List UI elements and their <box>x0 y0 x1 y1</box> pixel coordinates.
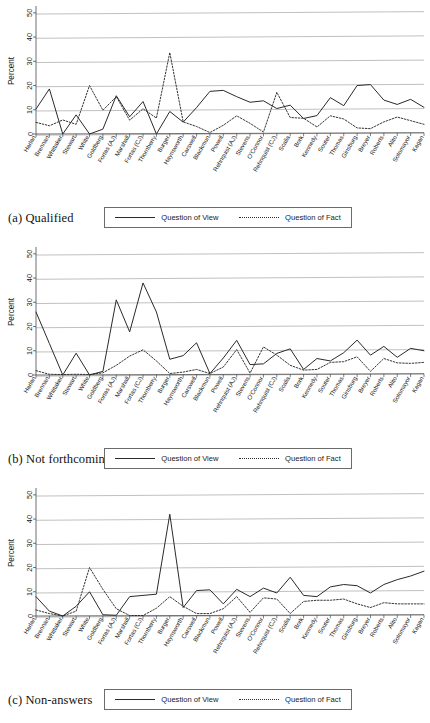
y-axis-tick-label: 30 <box>26 57 35 65</box>
figure-container: 01020304050PercentHarlanBrennanWhittaker… <box>0 0 430 723</box>
y-axis-tick-label: 30 <box>26 539 35 547</box>
y-axis-tick-label: 10 <box>26 347 35 355</box>
legend-label-fact: Question of Fact <box>285 213 341 222</box>
y-axis-tick-label: 40 <box>26 274 35 282</box>
y-axis-title: Percent <box>7 538 16 567</box>
y-axis-tick-label: 50 <box>26 491 35 499</box>
x-axis-tick-label: Alito <box>386 133 398 147</box>
legend-not-forthcoming: Question of View Question of Fact <box>104 448 352 469</box>
dotted-line-icon <box>239 458 279 459</box>
y-axis-tick-label: 10 <box>26 588 35 596</box>
y-axis-tick-label: 50 <box>26 9 35 17</box>
legend-item-view: Question of View <box>105 695 229 704</box>
x-axis-tick-label: Scalia <box>277 615 292 633</box>
y-axis-tick-label: 10 <box>26 106 35 114</box>
y-axis-tick-label: 20 <box>26 81 35 89</box>
legend-label-view: Question of View <box>161 695 218 704</box>
legend-item-fact: Question of Fact <box>229 213 351 222</box>
y-axis-tick-label: 30 <box>26 298 35 306</box>
x-axis-tick-label: Bork <box>292 374 305 389</box>
x-axis-tick-label: Scalia <box>277 374 292 392</box>
panel-non-answers: 01020304050PercentHarlanBrennanWhittaker… <box>0 482 430 723</box>
plot-area-qualified: 01020304050PercentHarlanBrennanWhittaker… <box>0 0 430 205</box>
y-axis-tick-label: 40 <box>26 33 35 41</box>
panel-not-forthcoming: 01020304050PercentHarlanBrennanWhittaker… <box>0 241 430 482</box>
x-axis-tick-label: Kagan <box>410 375 425 394</box>
chart-svg-qualified: 01020304050PercentHarlanBrennanWhittaker… <box>0 0 430 205</box>
legend-item-view: Question of View <box>105 454 229 463</box>
x-axis-tick-label: Scalia <box>277 133 292 151</box>
x-axis-tick-label: Alito <box>386 374 398 388</box>
caption-row-non-answers: (c) Non-answers Question of View Questio… <box>0 687 430 721</box>
legend-label-view: Question of View <box>161 213 218 222</box>
panel-qualified: 01020304050PercentHarlanBrennanWhittaker… <box>0 0 430 241</box>
caption-row-qualified: (a) Qualified Question of View Question … <box>0 205 430 239</box>
x-axis-tick-label: Kagan <box>410 134 425 153</box>
y-axis-tick-label: 50 <box>26 250 35 258</box>
y-axis-tick-label: 20 <box>26 322 35 330</box>
legend-label-fact: Question of Fact <box>285 695 341 704</box>
y-axis-title: Percent <box>7 297 16 326</box>
panel-caption: (c) Non-answers <box>8 693 92 708</box>
chart-svg-non-answers: 01020304050PercentHarlanBrennanWhittaker… <box>0 482 430 687</box>
x-axis-tick-label: Alito <box>386 615 398 629</box>
y-axis-tick-label: 20 <box>26 563 35 571</box>
series-line-question-of-view <box>36 283 424 375</box>
y-axis-title: Percent <box>7 56 16 85</box>
series-line-question-of-fact <box>36 53 424 133</box>
solid-line-icon <box>115 458 155 459</box>
solid-line-icon <box>115 217 155 218</box>
x-axis-tick-label: Kagan <box>410 616 425 635</box>
y-axis-tick-label: 40 <box>26 515 35 523</box>
legend-item-fact: Question of Fact <box>229 695 351 704</box>
panel-caption: (b) Not forthcoming <box>8 452 111 467</box>
caption-row-not-forthcoming: (b) Not forthcoming Question of View Que… <box>0 446 430 480</box>
solid-line-icon <box>115 699 155 700</box>
plot-area-non-answers: 01020304050PercentHarlanBrennanWhittaker… <box>0 482 430 687</box>
dotted-line-icon <box>239 217 279 218</box>
plot-area-not-forthcoming: 01020304050PercentHarlanBrennanWhittaker… <box>0 241 430 446</box>
dotted-line-icon <box>239 699 279 700</box>
legend-item-fact: Question of Fact <box>229 454 351 463</box>
legend-non-answers: Question of View Question of Fact <box>104 689 352 710</box>
legend-item-view: Question of View <box>105 213 229 222</box>
legend-label-fact: Question of Fact <box>285 454 341 463</box>
chart-svg-not-forthcoming: 01020304050PercentHarlanBrennanWhittaker… <box>0 241 430 446</box>
series-line-question-of-view <box>36 514 424 616</box>
legend-label-view: Question of View <box>161 454 218 463</box>
legend-qualified: Question of View Question of Fact <box>104 207 352 228</box>
x-axis-tick-label: Bork <box>292 133 305 148</box>
x-axis-tick-label: Bork <box>292 615 305 630</box>
panel-caption: (a) Qualified <box>8 211 74 226</box>
